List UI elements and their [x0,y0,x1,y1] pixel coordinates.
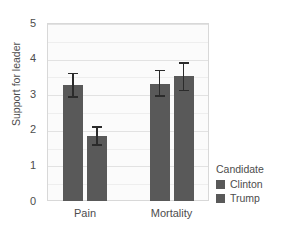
gridline-5 [48,24,208,25]
errorbar-pain-trump [92,126,102,146]
legend-swatch-trump [216,194,225,203]
bar-pain-clinton [63,85,83,201]
bar-chart: 012345 Support for leader PainMortality … [0,0,298,242]
legend-label-clinton: Clinton [230,178,263,190]
gridline-4 [48,60,208,61]
legend-swatch-clinton [216,180,225,189]
errorbar-line [72,73,73,98]
legend-item-trump[interactable]: Trump [216,192,264,204]
errorbar-cap-bottom [68,96,78,97]
errorbar-mortality-trump [179,62,189,91]
bar-mortality-clinton [150,84,170,201]
legend-label-trump: Trump [230,192,260,204]
gridline-minor-4.5 [48,42,208,43]
legend: Candidate ClintonTrump [216,163,264,206]
x-tick-label-pain: Pain [35,207,135,219]
errorbar-cap-bottom [92,144,102,145]
errorbar-cap-bottom [155,95,165,96]
x-tick-label-mortality: Mortality [122,207,222,219]
bar-pain-trump [87,136,107,201]
errorbar-line [96,126,97,146]
errorbar-line [159,70,160,97]
y-axis: 012345 [0,0,45,242]
errorbar-line [183,62,184,91]
errorbar-mortality-clinton [155,70,165,97]
legend-title: Candidate [216,163,264,175]
errorbar-pain-clinton [68,73,78,98]
errorbar-cap-bottom [179,90,189,91]
y-tick-label-1: 1 [8,160,36,171]
bar-mortality-trump [174,76,194,201]
y-axis-label: Support for leader [10,24,22,144]
legend-item-clinton[interactable]: Clinton [216,178,264,190]
y-tick-label-0: 0 [8,196,36,207]
